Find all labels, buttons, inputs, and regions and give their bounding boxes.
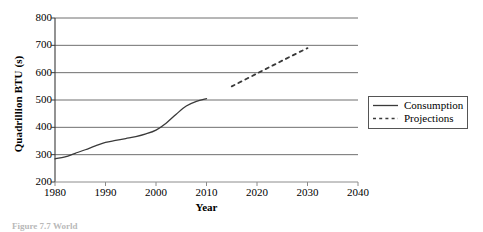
axis-lines bbox=[51, 18, 358, 186]
legend-label: Consumption bbox=[404, 100, 463, 111]
x-tick-label-2020: 2020 bbox=[237, 186, 277, 198]
x-tick-label-2010: 2010 bbox=[187, 186, 227, 198]
series-line-projections bbox=[232, 48, 308, 86]
legend-item-projections[interactable]: Projections bbox=[372, 112, 463, 125]
legend-item-consumption[interactable]: Consumption bbox=[372, 99, 463, 112]
plot-canvas bbox=[55, 18, 358, 182]
figure-caption: Figure 7.7 World bbox=[12, 221, 162, 232]
legend-sample-solid-icon bbox=[372, 100, 399, 111]
x-tick-label-1990: 1990 bbox=[86, 186, 126, 198]
x-tick-label-2030: 2030 bbox=[288, 186, 328, 198]
data-series-group bbox=[55, 48, 308, 159]
y-tick-label-700: 700 bbox=[24, 39, 52, 50]
x-tick-label-1980: 1980 bbox=[35, 186, 75, 198]
y-tick-label-800: 800 bbox=[24, 12, 52, 23]
chart-legend: ConsumptionProjections bbox=[368, 96, 468, 129]
gridlines bbox=[55, 18, 358, 155]
plot-area bbox=[55, 18, 358, 182]
legend-sample-dashed-icon bbox=[372, 113, 399, 124]
y-tick-label-300: 300 bbox=[24, 149, 52, 160]
y-tick-label-500: 500 bbox=[24, 94, 52, 105]
x-tick-label-2000: 2000 bbox=[136, 186, 176, 198]
x-axis-title: Year bbox=[55, 201, 358, 213]
x-axis-tick-labels: 1980199020002010202020302040 bbox=[0, 186, 483, 202]
y-tick-label-400: 400 bbox=[24, 121, 52, 132]
series-line-consumption bbox=[55, 99, 207, 159]
y-tick-label-600: 600 bbox=[24, 67, 52, 78]
figure-root: Quadrillion BTU (s) 20030040050060070080… bbox=[0, 0, 483, 232]
legend-label: Projections bbox=[404, 113, 454, 124]
x-tick-label-2040: 2040 bbox=[338, 186, 378, 198]
